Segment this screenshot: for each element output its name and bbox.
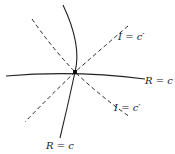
label-r-right: R = c <box>144 75 173 86</box>
label-i-bottom: I = c′ <box>113 102 141 113</box>
intersection-point <box>73 70 77 74</box>
level-curves-diagram: I = c′ R = c I = c′ R = c <box>0 0 175 154</box>
r-curve-horizontal <box>6 74 145 79</box>
label-i-top: I = c′ <box>117 31 145 42</box>
label-r-bottom: R = c <box>45 140 74 151</box>
